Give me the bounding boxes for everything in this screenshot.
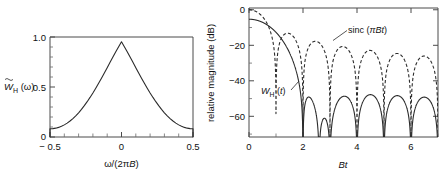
right-ytick-neg60: −60 [229, 111, 245, 122]
right-yaxis-label: relative magnitude (dB) [205, 24, 216, 122]
left-window-spectrum-curve [50, 42, 193, 137]
right-x-ticks [249, 8, 438, 137]
left-x-ticks [50, 132, 193, 137]
left-yaxis-label: WH (ω) [4, 79, 34, 94]
right-x-ticklabels: 0 2 4 6 [246, 141, 413, 152]
right-ytick-0: 0 [240, 4, 245, 15]
left-curve-group [50, 42, 193, 137]
hamming-window-curve [249, 19, 438, 137]
right-ytick-neg20: −20 [229, 40, 245, 51]
left-y-ticklabels: 0 0.5 1.0 [33, 32, 46, 143]
left-panel-frame [50, 37, 193, 137]
right-panel: 0 −20 −40 −60 0 2 4 6 Bt relative magnit… [205, 4, 438, 170]
right-xaxis-label: Bt [339, 159, 348, 170]
left-ytick-1p0: 1.0 [33, 32, 46, 43]
left-xtick-0: 0 [119, 141, 124, 152]
sinc-curve [249, 10, 438, 137]
left-ytick-0p5: 0.5 [33, 82, 46, 93]
left-panel: 0 0.5 1.0 − 0.5 0 0.5 ω/(2πB) WH (ω) [4, 32, 200, 170]
sinc-annotation: sinc (πBt) [333, 25, 387, 41]
wh-leader-line [291, 81, 299, 90]
svg-text:WH (ω): WH (ω) [4, 81, 34, 94]
sinc-annotation-label: sinc (πBt) [348, 25, 387, 35]
right-y-ticks [249, 10, 438, 134]
right-xtick-0: 0 [246, 141, 251, 152]
left-xaxis-label: ω/(2πB) [104, 158, 139, 169]
figure-container: 0 0.5 1.0 − 0.5 0 0.5 ω/(2πB) WH (ω) [0, 0, 444, 178]
right-xtick-2: 2 [300, 141, 305, 152]
left-xtick-0p5: 0.5 [186, 141, 199, 152]
right-xtick-6: 6 [408, 141, 413, 152]
left-y-ticks [50, 37, 55, 137]
right-xtick-4: 4 [354, 141, 359, 152]
right-ytick-neg40: −40 [229, 75, 245, 86]
sinc-leader-line [333, 31, 347, 41]
left-xtick-neg0p5: − 0.5 [39, 141, 60, 152]
left-x-ticklabels: − 0.5 0 0.5 [39, 141, 199, 152]
figure-svg: 0 0.5 1.0 − 0.5 0 0.5 ω/(2πB) WH (ω) [0, 0, 444, 178]
right-curves-group [249, 10, 438, 137]
wh-annotation-label: WH (t) [261, 86, 285, 98]
right-y-ticklabels: 0 −20 −40 −60 [229, 4, 245, 122]
right-panel-frame [249, 8, 438, 137]
wh-annotation: WH (t) [261, 81, 299, 98]
